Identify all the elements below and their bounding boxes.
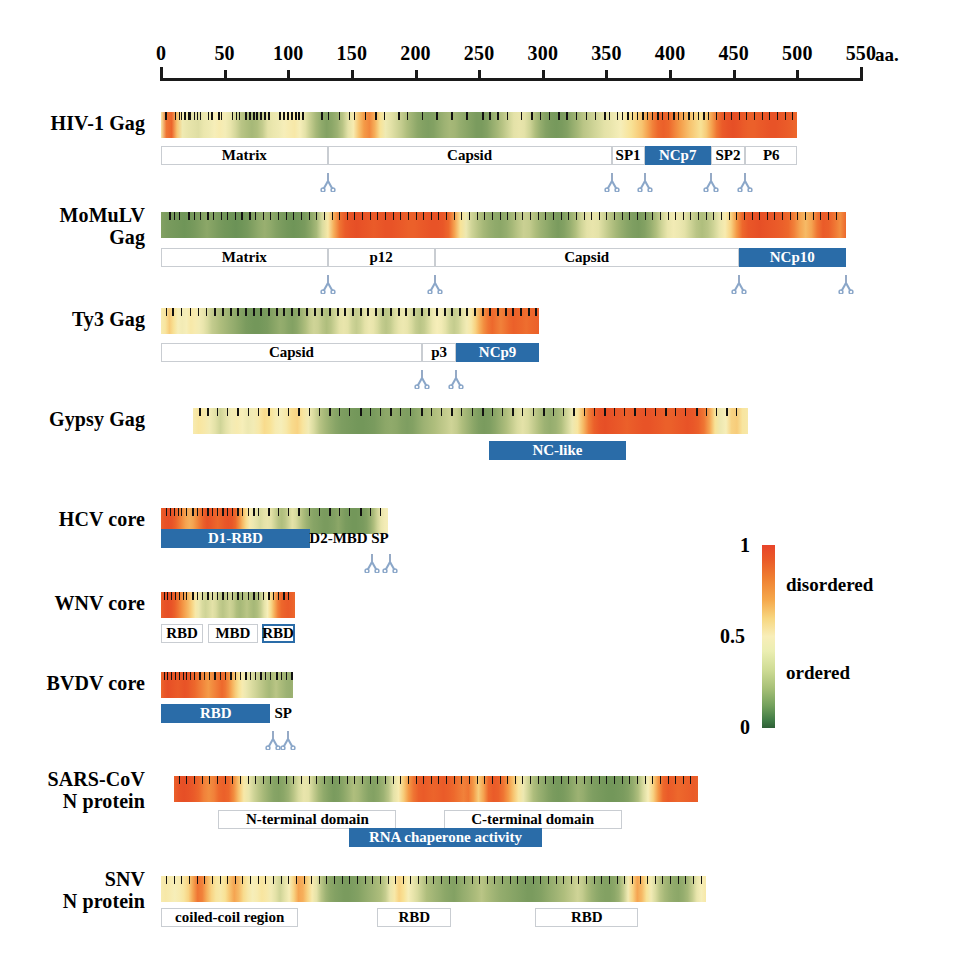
residue-mark [207, 212, 209, 220]
residue-mark [202, 592, 203, 600]
domain-wnv-core-2[interactable]: RBD [262, 624, 295, 643]
axis-tick-550 [860, 67, 863, 81]
residue-mark [441, 408, 442, 416]
domain-hiv1-gag-2[interactable]: SP1 [612, 146, 645, 165]
domain-label: Capsid [447, 148, 492, 163]
colorbar-tick-0: 0 [740, 716, 750, 739]
residue-mark [431, 776, 432, 784]
domain-label: p3 [431, 345, 447, 360]
residue-mark [428, 308, 430, 316]
domain-sars-cov-n-0[interactable]: N-terminal domain [218, 810, 396, 829]
domain-label: SP [274, 706, 292, 721]
residue-mark [349, 112, 350, 120]
residue-mark [586, 876, 587, 884]
domain-momulv-gag-3[interactable]: NCp10 [739, 248, 846, 267]
figure-canvas: 050100150200250300350400450500550 aa. HI… [0, 0, 955, 961]
residue-mark [595, 112, 596, 120]
residue-mark [347, 776, 348, 784]
residue-mark [746, 112, 747, 120]
domain-hiv1-gag-4[interactable]: SP2 [711, 146, 745, 165]
residue-mark [693, 112, 694, 120]
residue-mark [329, 408, 331, 416]
residue-mark [209, 776, 210, 784]
residue-mark [645, 776, 646, 784]
residue-mark [416, 776, 417, 784]
domain-hiv1-gag-0[interactable]: Matrix [161, 146, 328, 165]
residue-mark [517, 876, 518, 884]
domain-hiv1-gag-1[interactable]: Capsid [328, 146, 612, 165]
residue-mark [278, 592, 279, 600]
residue-mark [283, 112, 285, 120]
residue-mark [398, 112, 400, 120]
residue-mark [454, 212, 455, 220]
residue-mark [375, 112, 377, 120]
residue-mark [248, 508, 249, 516]
residue-mark [652, 776, 653, 784]
axis-tick-450 [733, 70, 736, 81]
residue-mark [640, 876, 641, 884]
residue-mark [179, 672, 180, 680]
axis-tick-label-100: 100 [258, 42, 318, 65]
axis-tick-label-450: 450 [704, 42, 764, 65]
domain-momulv-gag-2[interactable]: Capsid [435, 248, 739, 267]
domain-bvdv-core-1[interactable]: SP [270, 704, 295, 723]
domain-ty3-gag-2[interactable]: NCp9 [456, 343, 539, 362]
residue-mark [295, 112, 297, 120]
residue-mark [609, 876, 610, 884]
domain-sars-cov-n-1[interactable]: C-terminal domain [444, 810, 622, 829]
residue-mark [186, 776, 187, 784]
domain-label: C-terminal domain [471, 812, 594, 827]
residue-mark [273, 592, 274, 600]
domain-snv-n-0[interactable]: coiled-coil region [161, 908, 298, 927]
cleavage-scissors-icon [637, 172, 653, 192]
residue-mark [657, 112, 659, 120]
domain-snv-n-1[interactable]: RBD [377, 908, 451, 927]
domain-wnv-core-1[interactable]: MBD [208, 624, 258, 643]
residue-mark [192, 508, 194, 516]
residue-mark [390, 408, 392, 416]
residue-mark [522, 408, 523, 416]
residue-mark [301, 212, 302, 220]
residue-mark [288, 408, 289, 416]
domain-snv-n-2[interactable]: RBD [535, 908, 638, 927]
residue-mark [207, 508, 209, 516]
domain-gypsy-gag-0[interactable]: NC-like [489, 441, 625, 460]
residue-mark [344, 308, 346, 316]
residue-mark [762, 112, 763, 120]
residue-mark [319, 408, 320, 416]
residue-mark [731, 112, 732, 120]
domain-bvdv-core-0[interactable]: RBD [161, 704, 270, 723]
residue-mark [194, 672, 195, 680]
domain-hiv1-gag-3[interactable]: NCp7 [645, 146, 711, 165]
residue-mark [227, 212, 228, 220]
domain-wnv-core-0[interactable]: RBD [161, 624, 203, 643]
residue-mark [248, 776, 249, 784]
residue-mark [362, 212, 363, 220]
residue-mark [805, 212, 806, 220]
domain-momulv-gag-1[interactable]: p12 [328, 248, 435, 267]
residue-mark [365, 876, 366, 884]
domain-momulv-gag-0[interactable]: Matrix [161, 248, 328, 267]
residue-mark [566, 112, 568, 120]
domain-label: NC-like [532, 443, 582, 458]
residue-mark [736, 212, 737, 220]
domain-ty3-gag-1[interactable]: p3 [422, 343, 456, 362]
residue-mark [568, 776, 569, 784]
residue-mark-group [161, 308, 539, 334]
domain-ty3-gag-0[interactable]: Capsid [161, 343, 422, 362]
residue-mark [627, 112, 629, 120]
residue-mark [268, 408, 270, 416]
residue-mark [477, 212, 478, 220]
residue-mark [265, 876, 266, 884]
domain-hcv-core-1[interactable]: D2-MBD [310, 529, 367, 548]
residue-mark [222, 508, 224, 516]
residue-mark [388, 876, 389, 884]
residue-mark [685, 408, 686, 416]
domain-hcv-core-2[interactable]: SP [367, 529, 392, 548]
residue-mark [181, 112, 182, 120]
residue-mark [693, 876, 694, 884]
residue-mark [390, 308, 392, 316]
domain-hiv1-gag-5[interactable]: P6 [745, 146, 797, 165]
domain-sars-cov-n-2[interactable]: RNA chaperone activity [349, 828, 541, 847]
domain-hcv-core-0[interactable]: D1-RBD [161, 529, 310, 548]
